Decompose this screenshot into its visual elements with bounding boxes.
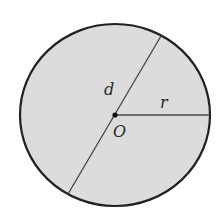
center-point <box>112 112 117 117</box>
radius-label: r <box>160 93 169 112</box>
circle-diagram: d r O <box>0 0 224 218</box>
diameter-label: d <box>104 80 114 99</box>
center-label: O <box>113 122 126 141</box>
